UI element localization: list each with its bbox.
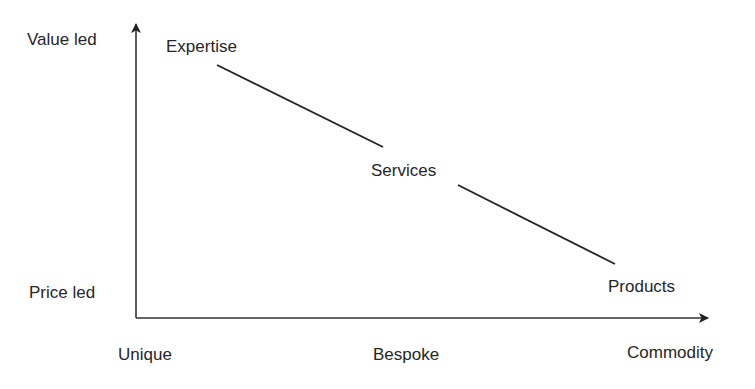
node-services: Services — [371, 161, 436, 181]
y-axis-bottom-label: Price led — [29, 283, 95, 303]
trend-line-services-to-products — [458, 185, 615, 264]
x-axis-label-bespoke: Bespoke — [373, 345, 439, 365]
x-axis-label-unique: Unique — [118, 345, 172, 365]
node-expertise: Expertise — [166, 37, 237, 57]
trend-line-expertise-to-services — [217, 65, 383, 147]
node-products: Products — [608, 277, 675, 297]
x-axis-label-commodity: Commodity — [627, 343, 713, 363]
y-axis-top-label: Value led — [27, 30, 97, 50]
positioning-diagram — [0, 0, 755, 389]
